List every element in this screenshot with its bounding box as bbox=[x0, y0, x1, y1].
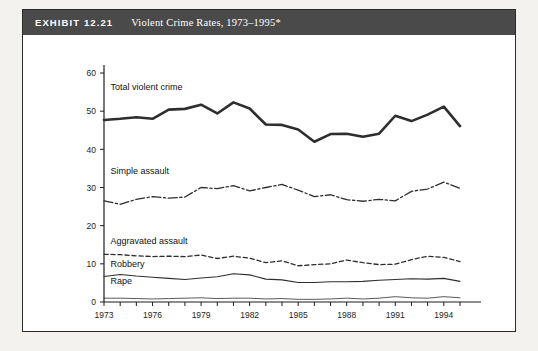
svg-text:1985: 1985 bbox=[289, 310, 308, 320]
svg-text:1988: 1988 bbox=[337, 310, 356, 320]
svg-text:1976: 1976 bbox=[143, 310, 162, 320]
svg-text:1994: 1994 bbox=[434, 310, 453, 320]
svg-text:1991: 1991 bbox=[386, 310, 405, 320]
line-chart: 0102030405060 19731976197919821985198819… bbox=[23, 35, 515, 332]
exhibit-title: Violent Crime Rates, 1973–1995* bbox=[131, 17, 281, 28]
exhibit-frame: EXHIBIT 12.21 Violent Crime Rates, 1973–… bbox=[22, 9, 516, 332]
exhibit-header: EXHIBIT 12.21 Violent Crime Rates, 1973–… bbox=[23, 10, 515, 35]
series-label-3: Robbery bbox=[110, 259, 145, 269]
series-label-1: Simple assault bbox=[110, 166, 169, 176]
series-line-1 bbox=[104, 182, 460, 204]
svg-text:40: 40 bbox=[87, 145, 97, 155]
y-axis: 0102030405060 bbox=[87, 65, 104, 307]
x-axis: 19731976197919821985198819911994 bbox=[95, 302, 481, 320]
series-label-0: Total violent crime bbox=[110, 82, 182, 92]
series-line-4 bbox=[104, 297, 460, 300]
svg-text:1973: 1973 bbox=[95, 310, 114, 320]
series-label-2: Aggravated assault bbox=[110, 236, 188, 246]
chart-area: 0102030405060 19731976197919821985198819… bbox=[23, 35, 515, 332]
svg-text:10: 10 bbox=[87, 259, 97, 269]
svg-text:50: 50 bbox=[87, 106, 97, 116]
svg-text:20: 20 bbox=[87, 221, 97, 231]
svg-text:30: 30 bbox=[87, 183, 97, 193]
series-label-4: Rape bbox=[110, 276, 132, 286]
screenshot-root: EXHIBIT 12.21 Violent Crime Rates, 1973–… bbox=[0, 0, 538, 351]
svg-text:60: 60 bbox=[87, 68, 97, 78]
svg-text:0: 0 bbox=[91, 297, 96, 307]
exhibit-number: EXHIBIT 12.21 bbox=[35, 17, 113, 28]
series-line-3 bbox=[104, 274, 460, 283]
series-line-2 bbox=[104, 254, 460, 265]
series-lines bbox=[104, 102, 460, 299]
series-line-0 bbox=[104, 102, 460, 141]
svg-text:1982: 1982 bbox=[240, 310, 259, 320]
svg-text:1979: 1979 bbox=[192, 310, 211, 320]
